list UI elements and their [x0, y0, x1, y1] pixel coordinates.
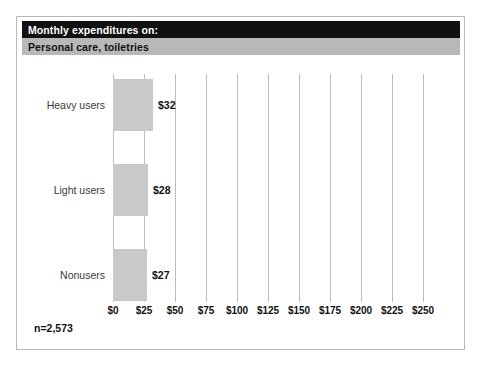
- xtick-label-175: $175: [319, 305, 341, 316]
- gridline-225: [392, 74, 393, 302]
- category-label-nonusers: Nonusers: [17, 269, 105, 281]
- sample-size-footnote: n=2,573: [34, 322, 73, 334]
- gridline-75: [206, 74, 207, 302]
- bar-value-heavy-users: $32: [158, 99, 176, 111]
- xtick-label-0: $0: [107, 305, 118, 316]
- category-label-light-users: Light users: [17, 184, 105, 196]
- xtick-label-150: $150: [288, 305, 310, 316]
- gridline-100: [237, 74, 238, 302]
- xtick-label-75: $75: [198, 305, 215, 316]
- bar-value-nonusers: $27: [152, 269, 170, 281]
- category-label-heavy-users: Heavy users: [17, 99, 105, 111]
- xtick-label-25: $25: [136, 305, 153, 316]
- bar-heavy-users: [113, 79, 153, 131]
- xtick-label-125: $125: [257, 305, 279, 316]
- chart-card: Monthly expenditures on: Personal care, …: [16, 16, 465, 350]
- xtick-label-100: $100: [226, 305, 248, 316]
- gridline-250: [423, 74, 424, 302]
- gridline-150: [299, 74, 300, 302]
- gridline-125: [268, 74, 269, 302]
- bar-value-light-users: $28: [153, 184, 171, 196]
- xtick-label-50: $50: [167, 305, 184, 316]
- gridline-200: [361, 74, 362, 302]
- plot-area: $32 $28 $27 Heavy users Light users Nonu…: [17, 17, 466, 351]
- bar-light-users: [113, 164, 148, 216]
- gridline-175: [330, 74, 331, 302]
- bar-nonusers: [113, 249, 147, 301]
- xtick-label-225: $225: [381, 305, 403, 316]
- xtick-label-250: $250: [412, 305, 434, 316]
- xtick-label-200: $200: [350, 305, 372, 316]
